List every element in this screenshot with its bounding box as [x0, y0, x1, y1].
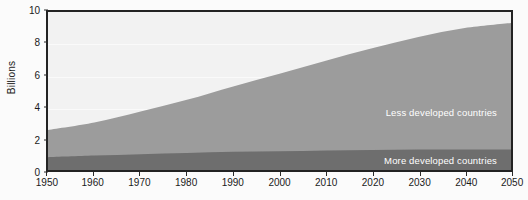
x-axis-tick-labels: 1950196019701980199020002010202020302040… — [46, 177, 513, 193]
series-label-less-developed: Less developed countries — [386, 107, 497, 118]
x-tick-label: 2030 — [408, 177, 430, 188]
x-tick-mark — [512, 172, 513, 176]
y-tick-mark — [44, 107, 48, 108]
y-tick-label: 2 — [34, 134, 40, 145]
x-tick-label: 1990 — [222, 177, 244, 188]
x-tick-mark — [326, 172, 327, 176]
y-tick-label: 0 — [34, 167, 40, 178]
population-stacked-area-chart: Billions 0246810 Less developed countrie… — [0, 0, 528, 200]
x-tick-label: 1970 — [128, 177, 150, 188]
x-tick-mark — [46, 172, 47, 176]
y-tick-mark — [44, 172, 48, 173]
y-tick-label: 4 — [34, 102, 40, 113]
x-tick-label: 2010 — [315, 177, 337, 188]
x-tick-mark — [233, 172, 234, 176]
plot-inner — [48, 12, 511, 170]
y-tick-mark — [44, 74, 48, 75]
x-tick-mark — [466, 172, 467, 176]
x-tick-label: 2000 — [268, 177, 290, 188]
x-tick-label: 2020 — [362, 177, 384, 188]
stacked-area-series — [48, 12, 511, 170]
y-tick-mark — [44, 10, 48, 11]
x-tick-label: 1980 — [175, 177, 197, 188]
x-tick-label: 1960 — [82, 177, 104, 188]
x-tick-label: 2040 — [455, 177, 477, 188]
x-tick-mark — [93, 172, 94, 176]
y-tick-mark — [44, 139, 48, 140]
y-axis-tick-labels: 0246810 — [20, 10, 40, 172]
x-tick-label: 1950 — [36, 177, 58, 188]
y-tick-mark — [44, 42, 48, 43]
x-tick-mark — [373, 172, 374, 176]
y-tick-label: 6 — [34, 69, 40, 80]
plot-area: Less developed countries More developed … — [46, 10, 513, 172]
y-axis-title: Billions — [6, 42, 17, 114]
x-tick-mark — [280, 172, 281, 176]
x-tick-mark — [186, 172, 187, 176]
area-less-developed-countries — [48, 23, 511, 170]
y-tick-label: 10 — [29, 5, 40, 16]
x-tick-mark — [139, 172, 140, 176]
y-tick-label: 8 — [34, 37, 40, 48]
series-label-more-developed: More developed countries — [384, 155, 497, 166]
x-tick-label: 2050 — [501, 177, 523, 188]
x-tick-mark — [420, 172, 421, 176]
